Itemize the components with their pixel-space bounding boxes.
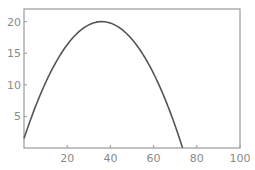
x-tick-label: 20 [60, 152, 74, 165]
plot-frame [24, 9, 240, 148]
y-tick-label: 5 [14, 110, 21, 123]
series-line-trajectory [24, 22, 183, 148]
line-chart: 204060801005101520 [0, 0, 255, 170]
y-tick-label: 20 [7, 16, 21, 29]
x-tick-label: 60 [147, 152, 161, 165]
y-tick-label: 15 [7, 47, 21, 60]
x-tick-label: 80 [190, 152, 204, 165]
x-tick-label: 100 [230, 152, 251, 165]
y-tick-label: 10 [7, 79, 21, 92]
x-tick-label: 40 [103, 152, 117, 165]
